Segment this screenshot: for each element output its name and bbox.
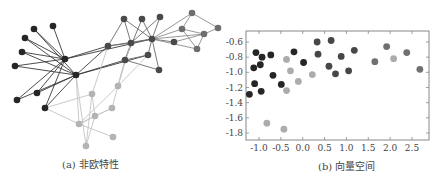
- scatter-point: [338, 53, 345, 60]
- scatter-point: [281, 126, 288, 133]
- scatter-point: [251, 80, 258, 87]
- scatter-point: [328, 37, 335, 44]
- x-tick-label: 1.5: [361, 143, 376, 153]
- scatter-point: [300, 59, 307, 66]
- y-tick-label: -1.0: [226, 67, 244, 77]
- scatter-point: [403, 49, 410, 56]
- scatter-point: [345, 67, 352, 74]
- scatter-point: [383, 43, 390, 50]
- scatter-plot: -1.0-0.50.00.51.01.52.02.5-0.6-0.8-1.0-1…: [0, 0, 440, 160]
- scatter-point: [267, 51, 274, 58]
- scatter-point: [332, 70, 339, 77]
- scatter-point: [283, 56, 290, 63]
- scatter-point: [315, 51, 322, 58]
- scatter-point: [258, 88, 265, 95]
- scatter-point: [295, 78, 302, 85]
- scatter-point: [263, 120, 270, 127]
- plot-frame: [246, 31, 429, 140]
- scatter-point: [326, 63, 333, 70]
- scatter-point: [416, 66, 423, 73]
- x-tick-label: -1.0: [250, 143, 268, 153]
- y-tick-label: -0.6: [226, 37, 244, 47]
- scatter-points: [246, 37, 423, 133]
- scatter-point: [371, 58, 378, 65]
- scatter-point: [253, 49, 260, 56]
- y-tick-label: -1.2: [226, 83, 243, 93]
- scatter-point: [390, 55, 397, 62]
- x-tick-label: 1.0: [339, 143, 354, 153]
- scatter-point: [250, 64, 257, 71]
- x-tick-label: -0.5: [272, 143, 290, 153]
- scatter-point: [259, 54, 266, 61]
- x-tick-label: 2.5: [405, 143, 420, 153]
- y-tick-label: -0.8: [226, 52, 244, 62]
- scatter-point: [351, 47, 358, 54]
- x-tick-label: 0.0: [296, 143, 311, 153]
- scatter-point: [257, 61, 264, 68]
- y-tick-label: -1.6: [226, 113, 244, 123]
- scatter-point: [246, 91, 253, 98]
- caption-b: (b) 向量空间: [318, 158, 375, 173]
- y-tick-label: -1.8: [226, 128, 244, 138]
- scatter-point: [270, 72, 277, 79]
- caption-a: (a) 非欧特性: [62, 156, 119, 171]
- scatter-point: [278, 81, 285, 88]
- scatter-point: [291, 48, 298, 55]
- scatter-point: [283, 87, 290, 94]
- scatter-point: [309, 71, 316, 78]
- scatter-point: [314, 39, 321, 46]
- y-tick-label: -1.4: [226, 98, 244, 108]
- x-tick-label: 0.5: [317, 143, 332, 153]
- scatter-point: [287, 67, 294, 74]
- x-tick-label: 2.0: [383, 143, 398, 153]
